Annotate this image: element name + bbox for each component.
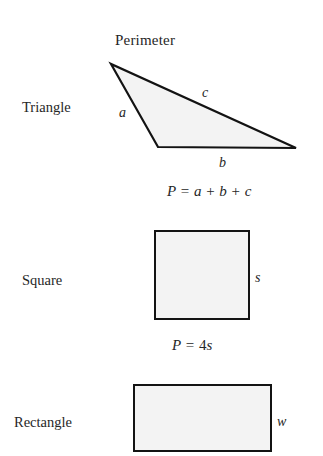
- formula-triangle-lhs: P: [167, 183, 176, 199]
- triangle-side-label-c: c: [202, 85, 208, 101]
- formula-square-term-s: s: [206, 337, 212, 353]
- formula-triangle: P = a + b + c: [167, 183, 251, 200]
- square-side-label-s: s: [255, 270, 260, 286]
- formula-square-equals: =: [185, 337, 195, 353]
- shape-label-triangle: Triangle: [22, 99, 71, 116]
- formula-triangle-term-a: a: [194, 183, 202, 199]
- formula-triangle-equals: =: [180, 183, 190, 199]
- perimeter-diagram: Perimeter Triangle a c b P = a + b + c S…: [0, 0, 323, 456]
- triangle-figure: [100, 52, 305, 160]
- triangle-side-label-a: a: [119, 105, 126, 121]
- formula-triangle-term-b: b: [219, 183, 227, 199]
- square-figure: [154, 230, 250, 320]
- triangle-side-label-b: b: [219, 155, 226, 171]
- shape-label-rectangle: Rectangle: [14, 414, 72, 431]
- rectangle-figure: [133, 384, 272, 452]
- rectangle-side-label-w: w: [277, 414, 286, 430]
- formula-square: P = 4s: [172, 337, 212, 354]
- page-title: Perimeter: [115, 32, 175, 49]
- formula-triangle-term-c: c: [245, 183, 252, 199]
- formula-square-lhs: P: [172, 337, 181, 353]
- formula-triangle-operator-1: +: [205, 183, 215, 199]
- shape-label-square: Square: [22, 272, 62, 289]
- formula-triangle-operator-2: +: [231, 183, 241, 199]
